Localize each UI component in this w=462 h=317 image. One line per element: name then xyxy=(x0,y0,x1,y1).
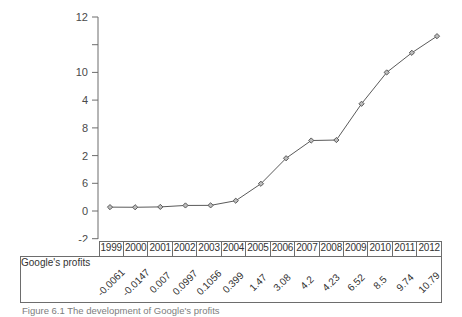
table-header-row: 1999200020012002200320042005200620072008… xyxy=(21,242,442,257)
data-table: 1999200020012002200320042005200620072008… xyxy=(20,241,442,303)
value-cell: 4.2 xyxy=(295,257,319,303)
figure-container: 12 10 8 6 4 2 0 -2 199920002001200220032… xyxy=(0,0,462,317)
year-header-cell: 2008 xyxy=(319,242,343,257)
header-spacer-cell xyxy=(21,242,100,257)
data-point-marker xyxy=(107,205,112,210)
ytick-label: 4 xyxy=(82,94,88,106)
chart-svg: 12 10 8 6 4 2 0 -2 xyxy=(0,0,462,242)
value-text: 10.79 xyxy=(416,270,441,295)
year-header-cell: 2004 xyxy=(221,242,245,257)
year-header-cell: 2007 xyxy=(295,242,319,257)
year-header-cell: 2012 xyxy=(417,242,442,257)
value-text: 9.74 xyxy=(394,272,416,294)
value-cell: 6.52 xyxy=(344,257,368,303)
value-cell: 1.47 xyxy=(246,257,270,303)
value-text: 0.1056 xyxy=(194,268,223,297)
series-markers xyxy=(107,34,439,210)
data-point-marker xyxy=(158,204,163,209)
value-text: 4.2 xyxy=(298,274,316,292)
value-text: -0.0147 xyxy=(120,267,152,299)
ytick-label: 6 xyxy=(82,177,88,189)
value-cell: -0.0147 xyxy=(123,257,147,303)
year-header-cell: 2006 xyxy=(270,242,294,257)
value-text: 6.52 xyxy=(345,272,367,294)
value-cell: 4.23 xyxy=(319,257,343,303)
value-cell: 3.08 xyxy=(270,257,294,303)
year-header-cell: 2002 xyxy=(172,242,196,257)
year-header-cell: 2009 xyxy=(344,242,368,257)
value-cell: 0.1056 xyxy=(197,257,221,303)
value-text: 8.5 xyxy=(371,274,389,292)
value-text: 4.23 xyxy=(321,272,343,294)
value-cell: -0.0061 xyxy=(99,257,123,303)
year-header-cell: 2000 xyxy=(123,242,147,257)
line-chart: 12 10 8 6 4 2 0 -2 xyxy=(0,0,462,242)
year-header-cell: 2010 xyxy=(368,242,392,257)
year-header-cell: 1999 xyxy=(99,242,123,257)
value-cell: 0.0997 xyxy=(172,257,196,303)
value-text: 0.399 xyxy=(221,270,246,295)
y-axis-tick-labels: 12 10 8 6 4 2 0 -2 xyxy=(76,11,88,242)
y-axis-ticks xyxy=(92,17,98,239)
figure-caption: Figure 6.1 The development of Google's p… xyxy=(22,305,452,317)
data-point-marker xyxy=(434,34,439,39)
value-text: 1.47 xyxy=(247,272,269,294)
year-header-cell: 2005 xyxy=(246,242,270,257)
year-header-cell: 2003 xyxy=(197,242,221,257)
table-row: Google's profits -0.0061-0.01470.0070.09… xyxy=(21,257,442,303)
ytick-label: 12 xyxy=(76,11,88,23)
data-point-marker xyxy=(133,205,138,210)
row-label-cell: Google's profits xyxy=(21,257,100,303)
year-header-cell: 2001 xyxy=(148,242,172,257)
ytick-label: 8 xyxy=(82,122,88,134)
value-text: 0.007 xyxy=(147,270,172,295)
ytick-label: 2 xyxy=(82,150,88,162)
value-text: 0.0997 xyxy=(170,268,199,297)
series-line xyxy=(110,36,437,207)
year-header-cell: 2011 xyxy=(392,242,416,257)
data-point-marker xyxy=(208,203,213,208)
ytick-label: 0 xyxy=(82,205,88,217)
value-text: 3.08 xyxy=(272,272,294,294)
value-cell: 10.79 xyxy=(417,257,442,303)
data-point-marker xyxy=(183,203,188,208)
ytick-label: 10 xyxy=(76,66,88,78)
value-cell: 9.74 xyxy=(392,257,416,303)
value-cell: 8.5 xyxy=(368,257,392,303)
value-cell: 0.399 xyxy=(221,257,245,303)
value-cell: 0.007 xyxy=(148,257,172,303)
